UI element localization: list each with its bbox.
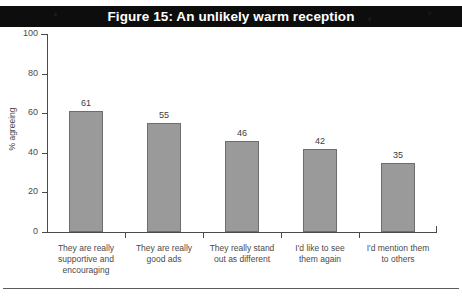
x-axis-category-label: They are reallygood ads [125, 243, 203, 265]
bar [303, 149, 337, 232]
x-axis-line [47, 232, 437, 233]
bar-value-label: 46 [222, 128, 262, 138]
x-axis-category-label: They really standout as different [203, 243, 281, 265]
figure-page: Figure 15: An unlikely warm reception % … [0, 0, 462, 297]
x-axis-category-label: I'd like to seethem again [281, 243, 359, 265]
figure-title: Figure 15: An unlikely warm reception [107, 9, 354, 24]
bar [69, 111, 103, 232]
x-axis-category-label-line: supportive and [47, 254, 125, 265]
x-axis-tick-mark [281, 233, 282, 238]
bar-value-label: 61 [66, 98, 106, 108]
x-axis-category-label-line: I'd like to see [281, 243, 359, 254]
x-axis-category-label: They are reallysupportive andencouraging [47, 243, 125, 276]
x-axis-category-label: I'd mention themto others [359, 243, 437, 265]
bar-chart: % agreeing 020406080100 6155464235 They … [0, 27, 462, 287]
x-axis-category-label-line: encouraging [47, 265, 125, 276]
x-axis-category-label-line: to others [359, 254, 437, 265]
x-axis-tick-mark [359, 233, 360, 238]
x-axis-category-label-line: them again [281, 254, 359, 265]
clipped-body-text [0, 0, 462, 5]
y-axis-tick: 0 [42, 232, 48, 233]
x-axis-category-label-line: They are really [47, 243, 125, 254]
x-axis-category-label-line: good ads [125, 254, 203, 265]
x-axis-category-label-line: They really stand [203, 243, 281, 254]
bar-value-label: 42 [300, 136, 340, 146]
figure-title-banner: Figure 15: An unlikely warm reception [0, 6, 462, 27]
bar-value-label: 55 [144, 110, 184, 120]
x-axis-category-label-line: I'd mention them [359, 243, 437, 254]
bar-value-label: 35 [378, 150, 418, 160]
y-axis-tick-mark [42, 232, 48, 233]
x-axis-category-label-line: out as different [203, 254, 281, 265]
x-axis-category-label-line: They are really [125, 243, 203, 254]
x-axis-tick-mark [203, 233, 204, 238]
bar [381, 163, 415, 232]
bar [225, 141, 259, 232]
bar [147, 123, 181, 232]
page-footer-rule [3, 288, 459, 289]
x-axis-tick-mark [125, 233, 126, 238]
